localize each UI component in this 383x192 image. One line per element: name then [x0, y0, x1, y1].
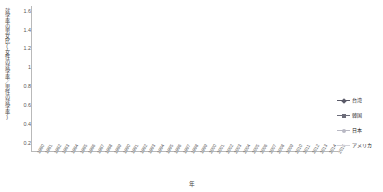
legend-label: 台湾	[352, 97, 362, 104]
legend-label: アメリカ	[352, 142, 372, 149]
legend-swatch-icon	[337, 112, 350, 119]
y-tick-label: 1.4	[5, 27, 31, 33]
y-tick-label: 1	[5, 64, 31, 70]
plot-area	[31, 6, 338, 152]
chart-container: 就学率の男女比(女性の就学率／男性の就学率) 1.61.41.210.80.60…	[0, 0, 383, 192]
legend-item-韓国[interactable]: 韓国	[337, 111, 362, 120]
legend-swatch-icon	[337, 97, 350, 104]
y-tick-label: 0.2	[5, 140, 31, 146]
x-axis-title: 年	[0, 180, 383, 188]
y-axis-line	[31, 6, 32, 152]
y-tick-label: 1.6	[5, 8, 31, 14]
plot-background	[31, 6, 338, 152]
y-tick-label: 1.2	[5, 45, 31, 51]
legend-item-日本[interactable]: 日本	[337, 126, 362, 135]
y-tick-label: 0.4	[5, 121, 31, 127]
legend-swatch-icon	[337, 127, 350, 134]
legend: 台湾韓国日本アメリカ	[337, 96, 383, 158]
legend-label: 日本	[352, 127, 362, 134]
legend-item-台湾[interactable]: 台湾	[337, 96, 362, 105]
y-tick-label: 0.6	[5, 102, 31, 108]
legend-swatch-icon	[337, 142, 350, 149]
legend-item-アメリカ[interactable]: アメリカ	[337, 141, 372, 150]
x-axis-tick-labels: 1980198119821983198419851986198719881989…	[31, 152, 338, 178]
y-tick-label: 0.8	[5, 83, 31, 89]
legend-label: 韓国	[352, 112, 362, 119]
